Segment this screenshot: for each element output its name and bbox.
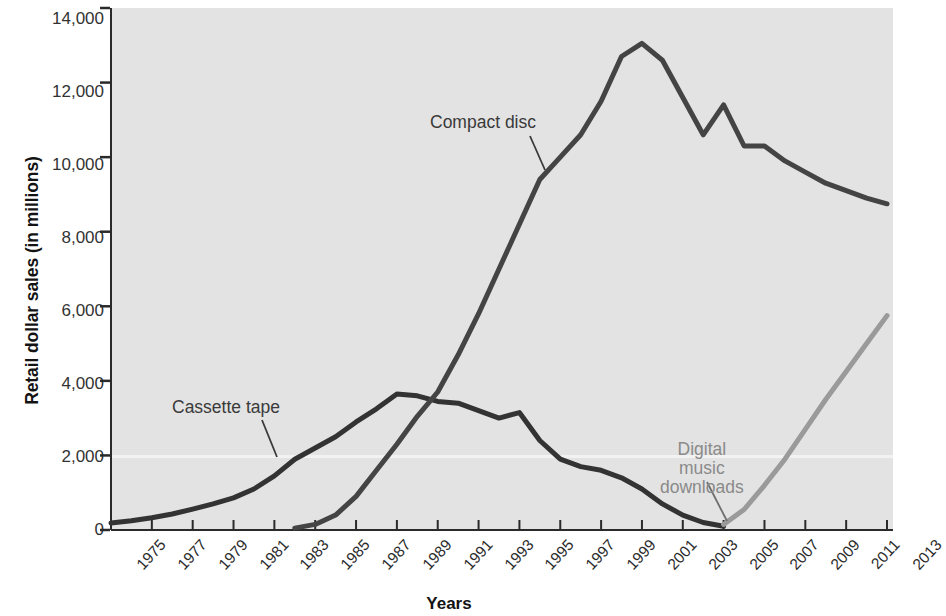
- x-tick-label: 2013: [909, 536, 946, 573]
- annotation-digital-line1: Digital: [678, 439, 727, 459]
- annotation-digital-line2: music: [679, 458, 725, 478]
- annotation-compact-disc: Compact disc: [430, 113, 536, 132]
- annotation-digital-line3: downloads: [660, 477, 744, 497]
- plot-texture: [111, 8, 893, 530]
- x-axis-title: Years: [0, 594, 898, 614]
- y-tick-marks: [100, 8, 110, 530]
- annotation-cassette-tape: Cassette tape: [172, 398, 280, 417]
- scan-artifact-band: [111, 455, 893, 458]
- annotation-digital-downloads: Digitalmusicdownloads: [660, 440, 744, 497]
